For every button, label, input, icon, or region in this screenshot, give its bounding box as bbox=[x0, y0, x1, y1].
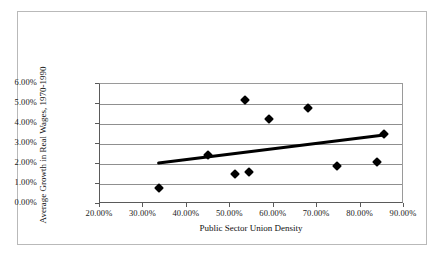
x-tick-label: 90.00% bbox=[373, 208, 433, 218]
y-tick-label: 4.00% bbox=[0, 118, 37, 127]
trendline-segment bbox=[159, 135, 384, 163]
y-tick-label: 0.00% bbox=[0, 198, 37, 207]
chart-figure: Average Growth in Real Wages, 1970-1990 … bbox=[0, 0, 444, 262]
y-tick-label: 6.00% bbox=[0, 78, 37, 87]
y-tick-label: 5.00% bbox=[0, 98, 37, 107]
x-axis-title: Public Sector Union Density bbox=[99, 222, 403, 234]
y-axis-title-text: Average Growth in Real Wages, 1970-1990 bbox=[36, 60, 50, 230]
y-tick-label: 3.00% bbox=[0, 138, 37, 147]
y-tick-label: 2.00% bbox=[0, 158, 37, 167]
trendline bbox=[100, 84, 404, 204]
y-axis-title: Average Growth in Real Wages, 1970-1990 bbox=[36, 0, 50, 60]
y-tick-label: 1.00% bbox=[0, 178, 37, 187]
plot-area bbox=[99, 83, 403, 203]
